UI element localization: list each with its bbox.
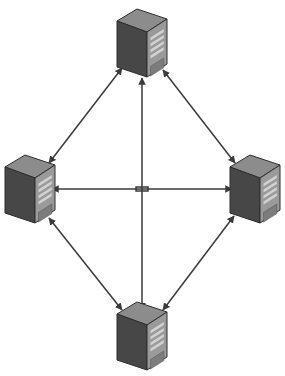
server-left[interactable] [5, 155, 55, 223]
server-tower-icon [230, 155, 280, 223]
server-bottom[interactable] [117, 302, 167, 370]
server-tower-icon [117, 302, 167, 370]
server-node-layer [0, 0, 285, 376]
server-top[interactable] [117, 9, 167, 77]
network-diagram-canvas [0, 0, 285, 376]
server-tower-icon [5, 155, 55, 223]
server-right[interactable] [230, 155, 280, 223]
server-tower-icon [117, 9, 167, 77]
